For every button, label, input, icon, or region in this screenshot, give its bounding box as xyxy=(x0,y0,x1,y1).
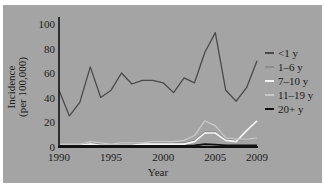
y-tick-label: 40 xyxy=(44,92,56,104)
legend-label: 20+ y xyxy=(278,103,304,115)
x-tick-label: 2005 xyxy=(204,151,227,163)
legend-label: <1 y xyxy=(278,47,298,59)
legend-label: 11–19 y xyxy=(278,89,314,101)
legend-item: 1–6 y xyxy=(265,61,303,73)
legend: <1 y1–6 y7–10 y11–19 y20+ y xyxy=(265,47,314,115)
legend-label: 7–10 y xyxy=(278,75,309,87)
x-tick-label: 1995 xyxy=(100,151,123,163)
y-axis-title: Incidence (per 100,000) xyxy=(5,57,29,117)
x-tick-labels: 19901995200020052009 xyxy=(48,151,269,163)
y-tick-label: 60 xyxy=(44,67,56,79)
legend-item: 11–19 y xyxy=(265,89,314,101)
x-tick-label: 2009 xyxy=(246,151,269,163)
y-tick-label: 100 xyxy=(39,18,56,30)
y-axis-title-line2: (per 100,000) xyxy=(16,57,29,117)
legend-label: 1–6 y xyxy=(278,61,303,73)
axes xyxy=(58,17,258,148)
y-tick-label: 20 xyxy=(44,116,56,128)
y-tick-label: 80 xyxy=(44,43,56,55)
legend-item: 7–10 y xyxy=(265,75,309,87)
legend-item: <1 y xyxy=(265,47,298,59)
x-tick-label: 1990 xyxy=(48,151,71,163)
y-tick-labels: 020406080100 xyxy=(39,18,56,153)
x-tick-label: 2000 xyxy=(152,151,175,163)
x-axis-title: Year xyxy=(148,166,169,178)
legend-item: 20+ y xyxy=(265,103,304,115)
series-lines xyxy=(59,33,257,146)
line-chart: 020406080100 19901995200020052009 Year I… xyxy=(0,0,324,190)
series-line xyxy=(59,33,257,116)
